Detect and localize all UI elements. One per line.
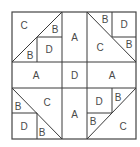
quilt-block-diagram: C B D B A B D C B A D A B C D B A D B B … — [0, 0, 140, 147]
piece-label-a: A — [71, 32, 78, 43]
piece-label-d: D — [45, 44, 52, 55]
piece-label-b: B — [115, 92, 122, 103]
piece-label-b: B — [15, 101, 22, 112]
piece-label-c: C — [20, 20, 27, 31]
piece-label-c: C — [119, 121, 126, 132]
piece-label-b: B — [102, 14, 109, 25]
piece-label-b: B — [90, 116, 97, 127]
piece-label-a: A — [71, 109, 78, 120]
piece-label-b: B — [27, 50, 34, 61]
piece-label-d: D — [120, 19, 127, 30]
piece-label-b: B — [39, 127, 46, 138]
piece-label-a: A — [33, 70, 40, 81]
piece-label-d: D — [95, 96, 102, 107]
piece-label-b: B — [52, 24, 59, 35]
piece-label-c: C — [43, 97, 50, 108]
piece-label-c: C — [96, 42, 103, 53]
piece-label-a: A — [109, 70, 116, 81]
piece-label-b: B — [126, 39, 133, 50]
piece-label-d: D — [20, 121, 27, 132]
piece-label-d: D — [71, 70, 78, 81]
